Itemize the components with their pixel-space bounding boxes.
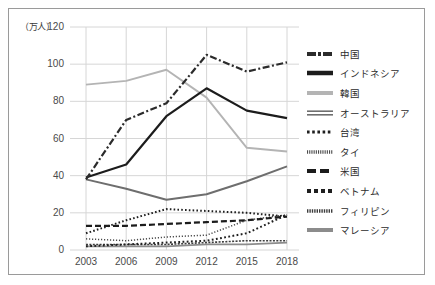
legend-item[interactable]: 韓国 [307,83,427,103]
legend-line-swatch-icon [307,166,333,176]
legend-item-label: マレーシア [340,223,390,237]
legend-item[interactable]: ベトナム [307,181,427,201]
legend-item[interactable]: タイ [307,142,427,162]
gridlines [70,27,299,250]
legend-line-swatch-icon [307,68,333,78]
legend-item[interactable]: マレーシア [307,220,427,240]
legend-line-swatch-icon [307,147,333,157]
legend-item-label: ベトナム [340,184,380,198]
legend-line-swatch-icon [307,127,333,137]
data-series-layer [86,55,287,246]
line-chart: （万人） 120100806040200 2003200620092012201… [0,0,435,285]
legend-item[interactable]: インドネシア [307,64,427,84]
legend-item[interactable]: 台湾 [307,122,427,142]
legend-item-label: 台湾 [340,125,360,139]
legend-line-swatch-icon [307,49,333,59]
legend-line-swatch-icon [307,186,333,196]
legend-item-label: インドネシア [340,66,400,80]
legend-item-label: オーストラリア [340,106,410,120]
legend-item[interactable]: 中国 [307,44,427,64]
legend-item-label: 米国 [340,164,360,178]
series-line [86,166,287,199]
legend-item-label: 中国 [340,47,360,61]
series-line [86,55,287,180]
legend-item[interactable]: 米国 [307,162,427,182]
legend-item-label: フィリピン [340,204,390,218]
legend-line-swatch-icon [307,225,333,235]
legend-item-label: タイ [340,145,360,159]
legend-line-swatch-icon [307,206,333,216]
legend-item[interactable]: オーストラリア [307,103,427,123]
legend-item[interactable]: フィリピン [307,201,427,221]
series-line [86,70,287,152]
legend-line-swatch-icon [307,88,333,98]
legend-line-swatch-icon [307,108,333,118]
chart-legend: 中国インドネシア韓国オーストラリア台湾タイ米国ベトナムフィリピンマレーシア [307,44,427,240]
legend-item-label: 韓国 [340,86,360,100]
